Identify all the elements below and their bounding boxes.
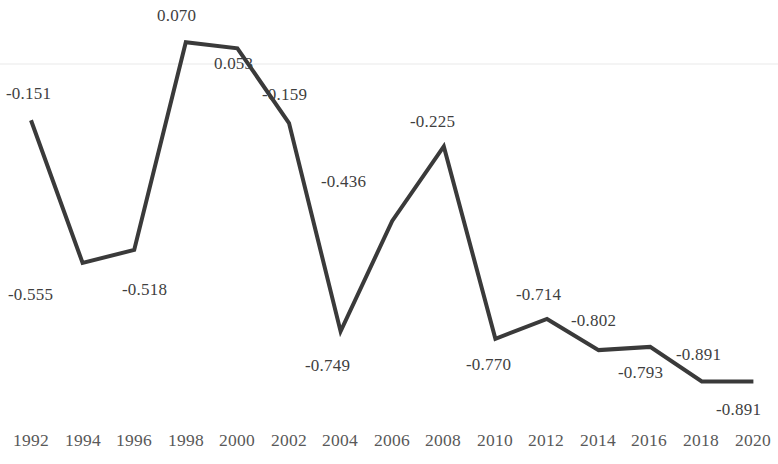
data-point-label: -0.714	[516, 285, 561, 304]
data-point-label: -0.518	[122, 280, 167, 299]
data-point-label: 0.070	[157, 6, 196, 25]
plot-area: -0.151-0.555-0.5180.0700.053-0.159-0.749…	[0, 0, 778, 424]
data-point-label: -0.151	[6, 84, 51, 103]
x-tick-2004: 2004	[314, 428, 366, 452]
data-point-label: -0.749	[305, 356, 350, 375]
data-point-label: -0.436	[321, 172, 366, 191]
data-point-label: -0.802	[571, 311, 616, 330]
data-point-label: -0.770	[466, 355, 511, 374]
data-point-label: -0.891	[716, 400, 761, 419]
x-tick-2012: 2012	[520, 428, 572, 452]
data-point-label: -0.225	[410, 112, 455, 131]
x-tick-2010: 2010	[469, 428, 521, 452]
x-tick-1998: 1998	[160, 428, 212, 452]
chart-plot-svg	[0, 0, 778, 424]
x-tick-1996: 1996	[108, 428, 160, 452]
data-point-label: -0.159	[262, 85, 307, 104]
data-point-label: 0.053	[214, 54, 253, 73]
x-tick-2002: 2002	[263, 428, 315, 452]
x-axis-tick-labels: 1992199419961998200020022004200620082010…	[0, 428, 778, 464]
x-tick-2018: 2018	[675, 428, 727, 452]
data-series-line	[31, 42, 753, 381]
x-tick-2016: 2016	[623, 428, 675, 452]
data-point-label: -0.793	[618, 363, 663, 382]
x-tick-2014: 2014	[572, 428, 624, 452]
x-tick-2000: 2000	[211, 428, 263, 452]
x-tick-2006: 2006	[366, 428, 418, 452]
x-tick-2008: 2008	[417, 428, 469, 452]
x-tick-1992: 1992	[5, 428, 57, 452]
x-tick-1994: 1994	[57, 428, 109, 452]
x-tick-2020: 2020	[727, 428, 778, 452]
line-chart: -0.151-0.555-0.5180.0700.053-0.159-0.749…	[0, 0, 778, 464]
data-point-label: -0.891	[676, 345, 721, 364]
data-point-label: -0.555	[8, 285, 53, 304]
